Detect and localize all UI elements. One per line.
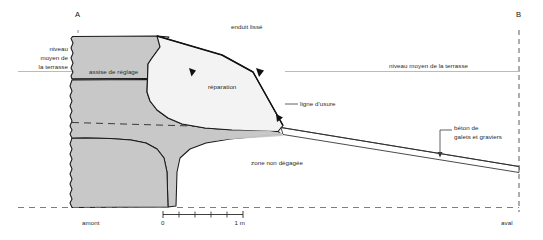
label-ligne-dusure: ligne d'usure [300, 100, 336, 108]
scale-bar-start-label: 0 [161, 219, 165, 227]
label-niveau-moyen-right: niveau moyen de la terrasse [389, 62, 468, 70]
masonry-lower-stem [70, 138, 168, 208]
assise-base-line [72, 79, 148, 80]
scale-bar [163, 211, 243, 218]
label-niveau-moyen-left-line3: la terrasse [16, 63, 68, 71]
scale-bar-end-label: 1 m [225, 219, 245, 227]
label-aval: aval [501, 219, 513, 227]
label-enduit-lisse: enduit lissé [231, 23, 263, 31]
diagram-canvas: A B niveau moyen de la terrasse assise d… [0, 0, 543, 240]
section-marker-a: A [75, 10, 80, 19]
section-marker-b: B [516, 10, 521, 19]
cross-section-drawing [0, 0, 543, 240]
label-zone-non-degagee: zone non dégagée [251, 159, 303, 167]
zone-non-degagee-shading [177, 131, 283, 157]
label-beton-line2: galets et graviers [454, 133, 502, 141]
label-assise-de-reglage: assise de réglage [89, 68, 138, 76]
label-amont: amont [82, 219, 99, 227]
label-reparation: réparation [208, 83, 236, 91]
repair-arrow-right-icon [256, 68, 264, 77]
label-niveau-moyen-left-line1: niveau [16, 45, 68, 53]
label-beton-line1: béton de [454, 124, 479, 132]
label-niveau-moyen-left-line2: moyen de [16, 54, 68, 62]
